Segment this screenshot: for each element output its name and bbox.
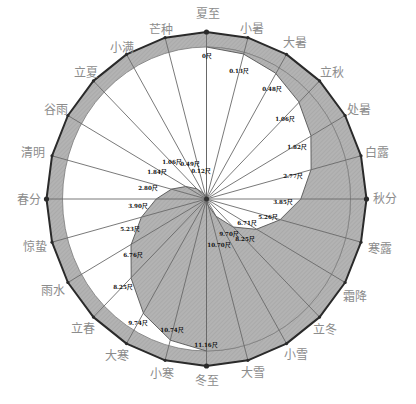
shadow-value-dongzhi: 11.16尺 — [194, 341, 218, 349]
center-dot — [204, 197, 209, 202]
vertex-dot — [92, 316, 95, 319]
vertex-dot — [344, 281, 347, 284]
term-label-yushui: 雨水 — [41, 284, 65, 298]
vertex-dot — [318, 316, 321, 319]
shadow-value-shuangjiang: 6.71尺 — [237, 219, 257, 227]
shadow-value-dahan: 9.74尺 — [128, 319, 148, 327]
shadow-value-mangzhong: 0.12尺 — [191, 167, 211, 175]
term-label-jingzhe: 惊蛰 — [23, 239, 47, 254]
vertex-dot — [359, 241, 362, 244]
term-label-shuangjiang: 霜降 — [343, 290, 367, 304]
vertex-dot — [285, 342, 288, 345]
shadow-value-xiaohan: 10.74尺 — [160, 326, 184, 334]
term-label-qiufen: 秋分 — [373, 192, 397, 206]
solar-terms-shadow-diagram: 夏至 小暑 大暑 立秋 处暑 白露 秋分 寒露 霜降 立冬 小雪 大雪 冬至 小… — [0, 0, 416, 404]
term-label-xiaohan: 小寒 — [150, 366, 174, 381]
vertex-dot — [125, 342, 128, 345]
shadow-value-bailu: 2.77尺 — [283, 172, 303, 180]
vertex-dot — [164, 359, 167, 362]
shadow-value-guyu: 1.84尺 — [147, 168, 167, 176]
term-label-guyu: 谷雨 — [44, 103, 68, 117]
vertex-dot — [66, 281, 69, 284]
shadow-value-hanlu: 5.26尺 — [258, 213, 278, 221]
term-label-dongzhi: 冬至 — [195, 373, 219, 388]
shadow-value-yushui: 6.76尺 — [123, 251, 143, 259]
shadow-value-qingming: 2.80尺 — [138, 184, 158, 192]
term-label-daxue: 大雪 — [241, 366, 265, 380]
term-label-liqiu: 立秋 — [320, 65, 344, 80]
vertex-dot — [359, 154, 362, 157]
term-label-xiaoshu: 小暑 — [240, 22, 264, 36]
shadow-value-chunfen: 3.90尺 — [128, 202, 148, 210]
shadow-value-lichun: 8.25尺 — [113, 283, 133, 291]
term-label-bailu: 白露 — [365, 145, 389, 160]
shadow-value-dashu: 0.48尺 — [262, 85, 282, 93]
term-label-mangzhong: 芒种 — [149, 22, 173, 37]
shadow-value-lixia: 1.06尺 — [162, 158, 182, 166]
shadow-value-daxue: 10.70尺 — [207, 241, 231, 249]
vertex-dot — [44, 196, 49, 201]
shadow-value-qiufen: 3.85尺 — [273, 198, 293, 206]
vertex-dot — [246, 359, 249, 362]
shadow-value-liqiu: 1.06尺 — [275, 115, 295, 123]
term-label-lidong: 立冬 — [313, 322, 337, 337]
term-label-chushu: 处暑 — [347, 103, 371, 117]
vertex-dot — [204, 363, 209, 368]
term-label-hanlu: 寒露 — [368, 241, 392, 256]
shadow-value-xiaoshu: 0.13尺 — [229, 67, 249, 75]
term-label-xiaoxue: 小雪 — [284, 348, 308, 362]
term-label-dahan: 大寒 — [105, 348, 129, 363]
shadow-value-xiaoxue: 9.70尺 — [219, 230, 239, 238]
vertex-dot — [50, 154, 53, 157]
vertex-dot — [285, 53, 288, 56]
term-label-xiaoman: 小满 — [110, 41, 134, 55]
vertex-dot — [364, 196, 369, 201]
shadow-value-xiazhi: 0尺 — [202, 52, 212, 60]
shadow-value-xiaoman: 0.49尺 — [180, 160, 200, 168]
shadow-value-chushu: 1.82尺 — [287, 143, 307, 151]
term-label-xiazhi: 夏至 — [196, 7, 220, 21]
term-label-qingming: 清明 — [21, 146, 45, 160]
term-label-dashu: 大暑 — [283, 36, 307, 50]
vertex-dot — [50, 241, 53, 244]
vertex-dot — [204, 29, 209, 34]
shadow-value-jingzhe: 5.23尺 — [120, 225, 140, 233]
term-label-chunfen: 春分 — [17, 193, 41, 207]
term-label-lixia: 立夏 — [74, 65, 98, 80]
term-label-lichun: 立春 — [71, 321, 95, 336]
vertex-dot — [246, 36, 249, 39]
